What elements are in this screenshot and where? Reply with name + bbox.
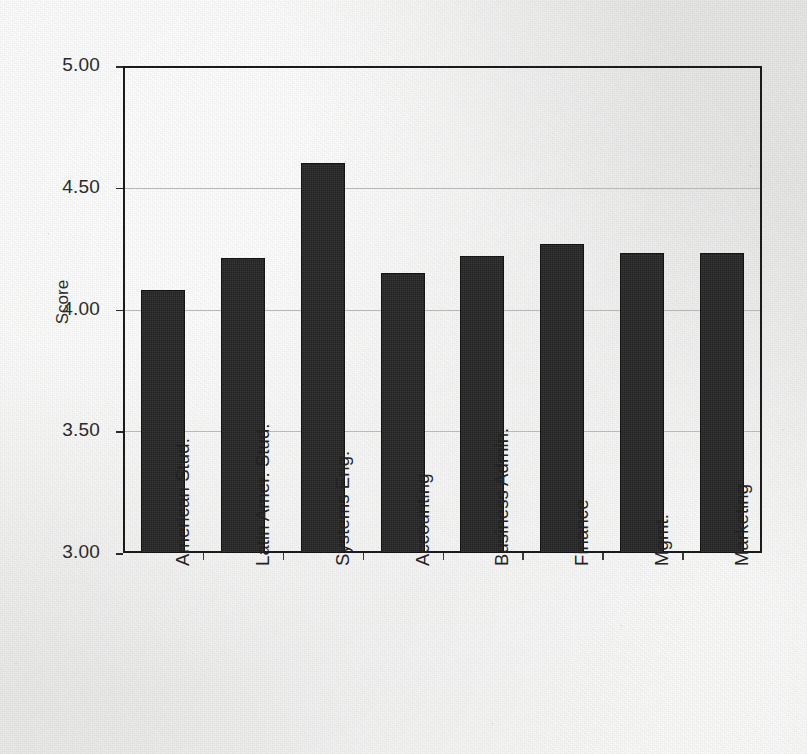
x-tick-label: Systems Eng. — [332, 451, 354, 566]
bar — [620, 253, 664, 553]
plot-area-frame — [123, 66, 762, 553]
y-tick-mark — [116, 431, 123, 433]
x-tick-mark — [522, 553, 524, 560]
x-tick-label: Mgmt. — [651, 514, 673, 566]
x-tick-mark — [283, 553, 285, 560]
y-tick-label: 4.00 — [38, 298, 100, 320]
y-tick-mark — [116, 66, 123, 68]
x-tick-mark — [602, 553, 604, 560]
x-tick-mark — [443, 553, 445, 560]
x-tick-label: Latin Amer. Stud. — [252, 423, 274, 566]
x-tick-label: Accounting — [412, 473, 434, 566]
y-tick-mark — [116, 553, 123, 555]
x-tick-label: Business Admin. — [491, 428, 513, 566]
x-tick-mark — [363, 553, 365, 560]
y-tick-mark — [116, 310, 123, 312]
y-tick-label: 4.50 — [38, 176, 100, 198]
x-tick-label: Finance — [571, 499, 593, 566]
x-tick-label: Marketing — [731, 484, 753, 566]
x-tick-mark — [682, 553, 684, 560]
y-tick-mark — [116, 188, 123, 190]
y-tick-label: 5.00 — [38, 54, 100, 76]
x-tick-mark — [203, 553, 205, 560]
y-tick-label: 3.00 — [38, 541, 100, 563]
bar-chart-figure: Score 3.003.504.004.505.00 American Stud… — [0, 0, 807, 754]
x-tick-label: American Stud. — [172, 438, 194, 566]
y-tick-label: 3.50 — [38, 419, 100, 441]
